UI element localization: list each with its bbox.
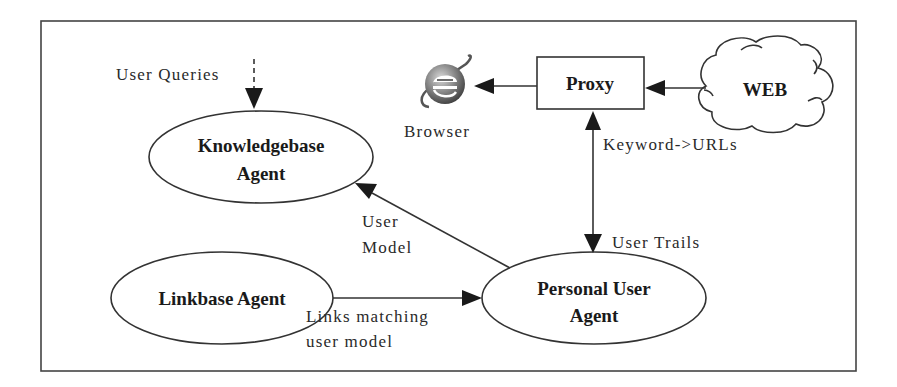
browser-node: Browser (404, 55, 471, 141)
edge-proxy-to-browser (474, 78, 537, 94)
proxy-node: Proxy (537, 57, 644, 109)
knowledgebase-agent-node: Knowledgebase Agent (149, 111, 373, 203)
linkbase-agent-label: Linkbase Agent (158, 288, 286, 309)
user-queries-label: User Queries (116, 65, 220, 84)
personal-user-agent-label-line2: Agent (570, 305, 619, 326)
arrowhead-icon (585, 111, 601, 130)
keyword-urls-label: Keyword->URLs (603, 135, 738, 154)
knowledgebase-agent-label-line1: Knowledgebase (198, 135, 325, 156)
user-trails-label: User Trails (612, 233, 700, 252)
browser-label: Browser (404, 122, 470, 141)
web-label: WEB (743, 79, 788, 100)
edge-web-to-proxy (645, 80, 706, 96)
arrowhead-icon (645, 80, 665, 96)
arrowhead-icon (355, 183, 377, 199)
knowledgebase-agent-label-line2: Agent (237, 163, 286, 184)
edge-links-matching (333, 290, 482, 306)
edge-proxy-personal-user (584, 111, 602, 253)
links-matching-label-line2: user model (306, 332, 393, 351)
user-model-label-line1: User (362, 212, 399, 231)
personal-user-agent-label-line1: Personal User (537, 278, 651, 299)
user-model-label-line2: Model (362, 238, 412, 257)
browser-e-icon (422, 55, 471, 107)
arrowhead-icon (245, 88, 263, 109)
personal-user-agent-node: Personal User Agent (482, 252, 706, 344)
linkbase-agent-node: Linkbase Agent (111, 252, 333, 344)
edge-user-queries (245, 59, 263, 109)
diagram-canvas: Knowledgebase Agent Linkbase Agent Perso… (0, 0, 897, 387)
arrowhead-icon (474, 78, 494, 94)
arrowhead-icon (584, 234, 602, 253)
proxy-label: Proxy (566, 73, 615, 94)
web-cloud-node: WEB (699, 36, 833, 133)
arrowhead-icon (462, 290, 482, 306)
links-matching-label-line1: Links matching (306, 307, 429, 326)
